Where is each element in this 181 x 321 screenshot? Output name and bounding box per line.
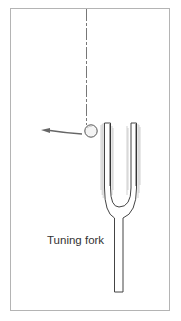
tuning-fork-icon xyxy=(105,123,137,292)
tuning-fork-label: Tuning fork xyxy=(47,234,104,246)
pendulum-ball-icon xyxy=(85,125,97,137)
tuning-fork-diagram xyxy=(0,0,181,321)
motion-arrow-icon xyxy=(41,128,82,134)
